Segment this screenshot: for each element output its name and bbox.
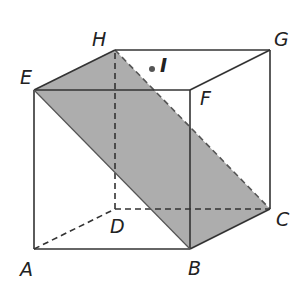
label-b: B bbox=[188, 257, 201, 279]
cube-diagram: A B C D E F G H I bbox=[0, 0, 307, 290]
label-d: D bbox=[110, 215, 125, 237]
label-c: C bbox=[276, 208, 290, 230]
shaded-plane-ehcb bbox=[34, 50, 270, 249]
label-a: A bbox=[18, 258, 33, 280]
label-f: F bbox=[200, 87, 212, 109]
label-i: I bbox=[160, 54, 167, 76]
label-e: E bbox=[20, 66, 32, 88]
edge-ad bbox=[34, 209, 115, 249]
label-h: H bbox=[92, 28, 106, 50]
edge-fg bbox=[190, 50, 270, 90]
point-i-dot bbox=[149, 66, 155, 72]
label-g: G bbox=[274, 28, 289, 50]
